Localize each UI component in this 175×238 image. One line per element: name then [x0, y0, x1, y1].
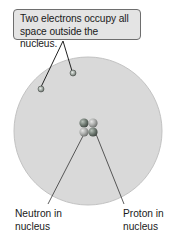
electron-icon: [38, 86, 44, 92]
neutron-label: Neutron in nucleus: [15, 208, 62, 233]
neutron-label-line-1: Neutron in: [15, 208, 62, 221]
electron-icon: [70, 70, 76, 76]
callout-line-2: space outside the nucleus.: [20, 26, 136, 51]
neutron-icon: [79, 118, 88, 127]
proton-label: Proton in nucleus: [123, 208, 164, 233]
neutron-label-line-2: nucleus: [15, 221, 62, 234]
callout-line-1: Two electrons occupy all: [20, 13, 136, 26]
proton-label-line-2: nucleus: [123, 221, 164, 234]
proton-icon: [88, 118, 97, 127]
electron-callout-box: Two electrons occupy all space outside t…: [13, 9, 141, 40]
proton-icon: [79, 127, 88, 136]
proton-label-line-1: Proton in: [123, 208, 164, 221]
neutron-icon: [88, 127, 97, 136]
